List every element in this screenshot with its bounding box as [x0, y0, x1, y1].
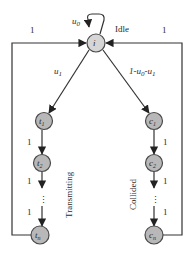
c1-node: c1 [146, 113, 163, 130]
to-collided-label: 1-u0-u1 [129, 66, 156, 78]
c2-node: c2 [146, 155, 163, 172]
transmitting-label: Transmitting [64, 171, 74, 218]
dots-tn-label: 1 [27, 207, 32, 217]
t1-node: t1 [36, 113, 53, 130]
dots-cn-label: 1 [163, 207, 168, 217]
collided-label: Collided [128, 179, 138, 210]
right-return-label: 1 [162, 25, 167, 35]
transmitting-ellipsis: ⋮ [39, 195, 48, 205]
self-loop-edge [88, 14, 105, 34]
c1-c2-label: 1 [163, 137, 168, 147]
t1-t2-label: 1 [27, 137, 32, 147]
idle-to-t1-edge [49, 50, 89, 113]
t2-node: t2 [34, 155, 51, 172]
self-loop-label: u0 [72, 16, 81, 28]
tn-node: tn [31, 226, 49, 244]
c2-dots-label: 1 [163, 176, 168, 186]
left-return-label: 1 [30, 25, 35, 35]
to-transmitting-label: u1 [54, 66, 62, 78]
cn-node: cn [145, 226, 163, 244]
collided-ellipsis: ⋮ [151, 195, 160, 205]
state-diagram: 1 1 u0 Idle u1 1-u0-u1 1 1 ⋮ 1 1 1 ⋮ 1 T… [0, 0, 194, 256]
idle-to-c1-edge [103, 50, 149, 113]
t2-dots-label: 1 [27, 176, 32, 186]
idle-node: i [87, 34, 105, 52]
idle-state-label: Idle [115, 24, 129, 34]
